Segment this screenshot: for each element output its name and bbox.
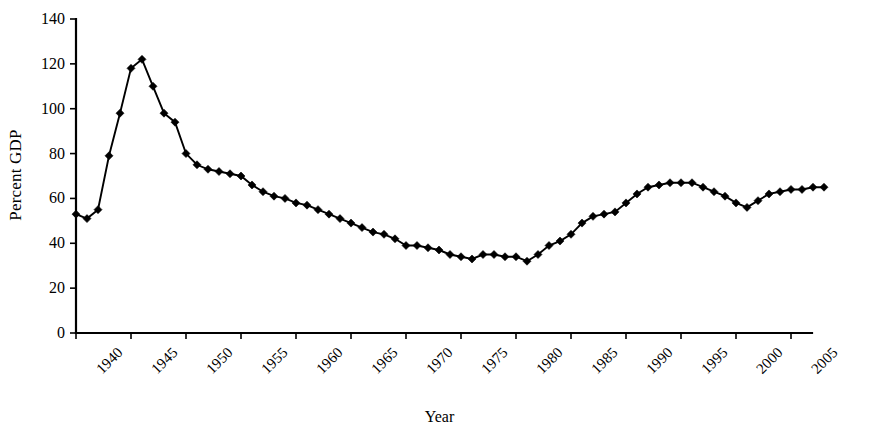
data-point-marker (787, 185, 795, 193)
data-point-marker (226, 170, 234, 178)
data-point-marker (688, 179, 696, 187)
data-point-marker (490, 251, 498, 259)
data-point-marker (512, 253, 520, 261)
data-point-marker (314, 206, 322, 214)
data-point-marker (479, 251, 487, 259)
data-point-marker (413, 242, 421, 250)
data-point-marker (336, 215, 344, 223)
data-point-marker (424, 244, 432, 252)
series-markers (72, 55, 828, 265)
data-point-marker (677, 179, 685, 187)
data-point-marker (72, 210, 80, 218)
axes-lines (76, 19, 812, 333)
data-point-marker (809, 183, 817, 191)
data-point-marker (655, 181, 663, 189)
data-point-marker (369, 228, 377, 236)
data-point-marker (303, 201, 311, 209)
data-point-marker (710, 188, 718, 196)
data-point-marker (468, 255, 476, 263)
data-point-marker (798, 185, 806, 193)
data-point-marker (820, 183, 828, 191)
plot-area (0, 0, 879, 443)
data-point-marker (116, 109, 124, 117)
data-point-marker (380, 230, 388, 238)
data-point-marker (699, 183, 707, 191)
series-line-percent-gdp (76, 59, 824, 261)
data-point-marker (435, 246, 443, 254)
data-point-marker (358, 224, 366, 232)
data-point-marker (215, 168, 223, 176)
data-point-marker (600, 210, 608, 218)
data-point-marker (292, 199, 300, 207)
data-point-marker (776, 188, 784, 196)
data-point-marker (149, 82, 157, 90)
data-point-marker (446, 251, 454, 259)
data-point-marker (457, 253, 465, 261)
data-point-marker (281, 194, 289, 202)
axis-tick-marks (70, 19, 791, 339)
data-point-marker (270, 192, 278, 200)
data-point-marker (501, 253, 509, 261)
data-point-marker (666, 179, 674, 187)
data-point-marker (105, 152, 113, 160)
data-point-marker (325, 210, 333, 218)
chart-figure: Percent GDP Year 020406080100120140 1940… (0, 0, 879, 443)
data-point-marker (347, 219, 355, 227)
data-point-marker (204, 165, 212, 173)
